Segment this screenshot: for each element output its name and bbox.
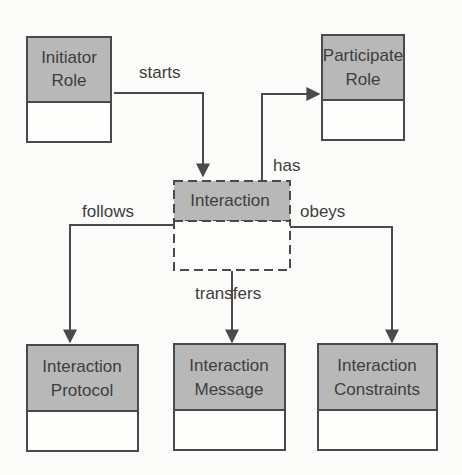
- node-interaction-protocol: Interaction Protocol: [27, 345, 138, 451]
- node-interaction: Interaction: [174, 181, 290, 270]
- node-initiator-role: Initiator Role: [27, 37, 111, 142]
- node-interaction-message-line2: Message: [195, 380, 264, 399]
- edge-label-obeys: obeys: [300, 202, 345, 221]
- node-participate-role-line1: Participate: [323, 46, 403, 65]
- node-interaction-constraints-line1: Interaction: [337, 356, 416, 375]
- node-initiator-role-line2: Role: [52, 71, 87, 90]
- node-initiator-role-line1: Initiator: [41, 48, 97, 67]
- edge-label-follows: follows: [82, 202, 134, 221]
- edge-starts: starts: [114, 63, 203, 176]
- edge-obeys: obeys: [290, 202, 392, 342]
- edge-has: has: [262, 94, 319, 182]
- node-interaction-protocol-line2: Protocol: [51, 381, 113, 400]
- node-interaction-message: Interaction Message: [174, 344, 285, 450]
- node-participate-role: Participate Role: [322, 35, 404, 140]
- edge-transfers: transfers: [195, 271, 261, 342]
- node-interaction-message-line1: Interaction: [189, 356, 268, 375]
- edge-label-starts: starts: [139, 63, 181, 82]
- class-diagram: starts has follows obeys transfers Initi…: [0, 0, 462, 475]
- node-interaction-protocol-line1: Interaction: [42, 357, 121, 376]
- node-interaction-line1: Interaction: [190, 191, 269, 210]
- edge-label-transfers: transfers: [195, 284, 261, 303]
- node-participate-role-line2: Role: [346, 70, 381, 89]
- node-interaction-constraints: Interaction Constraints: [318, 344, 437, 450]
- edge-label-has: has: [273, 156, 300, 175]
- edge-follows: follows: [70, 202, 173, 342]
- node-interaction-constraints-line2: Constraints: [334, 380, 420, 399]
